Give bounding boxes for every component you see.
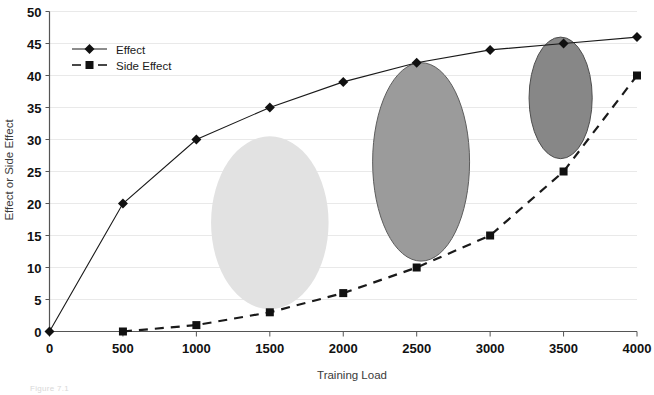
zone-ellipses [211,37,592,309]
x-tick-label: 1500 [255,341,284,356]
y-tick-label: 15 [27,229,41,244]
y-tick-label: 5 [34,293,41,308]
y-tick-label: 40 [27,69,41,84]
y-tick-label: 10 [27,261,41,276]
data-point-marker [265,103,275,113]
figure-root: 0500100015002000250030003500400005101520… [0,0,654,395]
x-tick-label: 2000 [329,341,358,356]
data-point-marker [413,264,421,272]
data-point-marker [486,232,494,240]
y-tick-label: 45 [27,37,41,52]
y-tick-label: 30 [27,133,41,148]
zone-ellipse-light [211,136,329,309]
y-axis-title: Effect or Side Effect [3,119,15,221]
x-tick-label: 2500 [402,341,431,356]
chart-legend: EffectSide Effect [72,44,172,72]
data-point-marker [192,321,200,329]
x-tick-label: 3000 [476,341,505,356]
data-point-marker [266,308,274,316]
x-tick-label: 500 [112,341,134,356]
legend-item-side-effect[interactable]: Side Effect [72,60,172,72]
data-point-marker [339,289,347,297]
legend-marker [86,61,94,69]
figure-caption: Figure 7.1 [30,384,69,393]
y-tick-label: 20 [27,197,41,212]
legend-marker [85,44,95,54]
y-tick-label: 25 [27,165,41,180]
legend-item-effect[interactable]: Effect [72,44,146,56]
x-tick-label: 3500 [549,341,578,356]
y-tick-label: 35 [27,101,41,116]
data-point-marker [560,168,568,176]
x-tick-label: 4000 [623,341,652,356]
data-point-marker [632,32,642,42]
y-tick-label: 50 [27,5,41,20]
data-point-marker [119,328,127,336]
legend-label: Effect [116,44,146,56]
x-axis-title: Training Load [317,369,387,381]
chart-canvas: 0500100015002000250030003500400005101520… [0,0,654,395]
data-point-marker [338,77,348,87]
data-point-marker [45,327,55,337]
data-point-marker [633,72,641,80]
data-point-marker [485,45,495,55]
legend-label: Side Effect [116,60,172,72]
zone-ellipse-medium [373,63,470,261]
x-tick-label: 0 [46,341,53,356]
zone-ellipse-dark [529,37,592,159]
x-tick-label: 1000 [182,341,211,356]
y-tick-label: 0 [34,325,41,340]
